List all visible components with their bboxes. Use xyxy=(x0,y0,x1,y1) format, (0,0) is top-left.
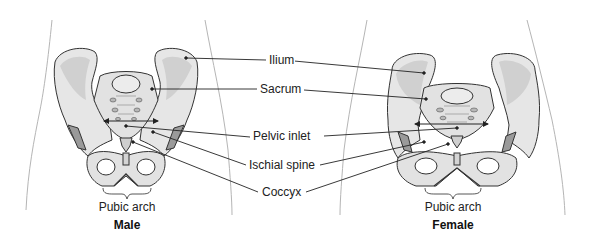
diagram-artwork xyxy=(0,0,589,239)
label-ilium: Ilium xyxy=(268,53,295,67)
female-pelvis xyxy=(387,53,539,186)
male-title: Male xyxy=(97,218,157,232)
female-pubic-arch-caption: Pubic arch xyxy=(423,200,483,214)
male-pubic-arch-caption: Pubic arch xyxy=(97,200,157,214)
label-pelvic-inlet: Pelvic inlet xyxy=(252,129,311,143)
label-sacrum: Sacrum xyxy=(259,82,302,96)
label-coccyx: Coccyx xyxy=(261,185,302,199)
female-title: Female xyxy=(423,218,483,232)
male-pelvis xyxy=(54,48,198,186)
pelvis-diagram: Ilium Sacrum Pelvic inlet Ischial spine … xyxy=(0,0,589,239)
label-ischial-spine: Ischial spine xyxy=(248,158,316,172)
